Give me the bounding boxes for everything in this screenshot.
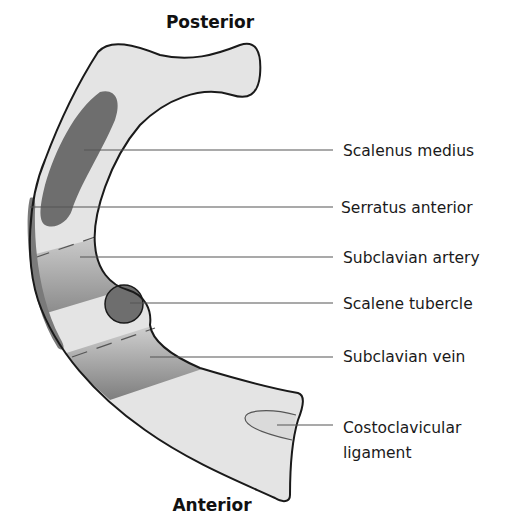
scalene-tubercle [105,285,143,323]
label-costoclavicular-line1: Costoclavicular [343,419,462,437]
first-rib [20,44,303,501]
label-subclavian-artery: Subclavian artery [343,249,480,267]
label-subclavian-vein: Subclavian vein [343,348,465,366]
first-rib-diagram: Posterior Anterior Sca [0,0,505,530]
anterior-label: Anterior [172,495,252,515]
label-scalene-tubercle: Scalene tubercle [343,295,473,313]
label-serratus-anterior: Serratus anterior [341,199,473,217]
label-costoclavicular-line2: ligament [343,444,412,462]
structure-labels: Scalenus medius Serratus anterior Subcla… [341,142,480,462]
label-scalenus-medius: Scalenus medius [343,142,474,160]
posterior-label: Posterior [166,12,255,32]
